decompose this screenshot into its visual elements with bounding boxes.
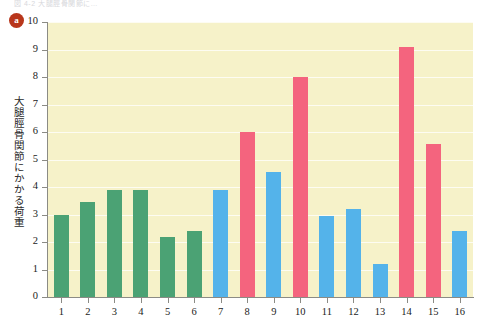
x-tick-label: 9: [263, 306, 285, 317]
y-tick-label: 4: [16, 180, 38, 191]
x-tick-label: 16: [449, 306, 471, 317]
y-tick-label: 5: [16, 153, 38, 164]
bar: [319, 216, 334, 297]
x-tick-label: 14: [396, 306, 418, 317]
y-tick-mark: [42, 242, 47, 243]
x-tick-label: 1: [50, 306, 72, 317]
bar: [80, 202, 95, 297]
x-tick-label: 15: [422, 306, 444, 317]
y-tick-label: 6: [16, 125, 38, 136]
bar: [187, 231, 202, 297]
bar: [213, 190, 228, 297]
x-tick-mark: [407, 298, 408, 303]
x-tick-mark: [141, 298, 142, 303]
x-tick-mark: [274, 298, 275, 303]
x-tick-mark: [380, 298, 381, 303]
x-tick-mark: [194, 298, 195, 303]
x-tick-mark: [247, 298, 248, 303]
y-tick-mark: [42, 77, 47, 78]
bar: [107, 190, 122, 297]
bar: [240, 132, 255, 297]
x-tick-label: 4: [130, 306, 152, 317]
y-tick-label: 0: [16, 290, 38, 301]
x-tick-mark: [327, 298, 328, 303]
y-tick-label: 7: [16, 98, 38, 109]
y-tick-label: 9: [16, 43, 38, 54]
y-axis-line: [47, 22, 48, 298]
gridline: [48, 22, 473, 23]
x-tick-mark: [460, 298, 461, 303]
x-tick-label: 12: [342, 306, 364, 317]
x-tick-mark: [433, 298, 434, 303]
x-tick-label: 10: [289, 306, 311, 317]
y-tick-label: 1: [16, 263, 38, 274]
x-axis-line: [47, 297, 474, 298]
y-tick-mark: [42, 132, 47, 133]
x-tick-label: 6: [183, 306, 205, 317]
y-tick-mark: [42, 22, 47, 23]
y-tick-mark: [42, 187, 47, 188]
x-tick-label: 11: [316, 306, 338, 317]
y-tick-label: 3: [16, 208, 38, 219]
x-tick-label: 3: [103, 306, 125, 317]
y-tick-label: 2: [16, 235, 38, 246]
y-tick-mark: [42, 50, 47, 51]
x-tick-mark: [353, 298, 354, 303]
y-tick-mark: [42, 297, 47, 298]
x-tick-mark: [300, 298, 301, 303]
x-tick-label: 2: [77, 306, 99, 317]
x-tick-label: 13: [369, 306, 391, 317]
figure-panel: 図 4-2 大腿脛骨関節に… a 大腿脛骨関節にかかる荷重 1098765432…: [0, 0, 483, 330]
bar: [452, 231, 467, 297]
bar: [160, 237, 175, 298]
x-tick-mark: [88, 298, 89, 303]
y-tick-mark: [42, 160, 47, 161]
bar: [373, 264, 388, 297]
x-tick-mark: [114, 298, 115, 303]
bar: [133, 190, 148, 297]
x-tick-mark: [168, 298, 169, 303]
bar: [54, 215, 69, 298]
x-tick-label: 5: [157, 306, 179, 317]
y-tick-mark: [42, 105, 47, 106]
x-tick-mark: [61, 298, 62, 303]
bar: [346, 209, 361, 297]
y-tick-label: 10: [16, 15, 38, 26]
x-tick-label: 7: [210, 306, 232, 317]
y-tick-mark: [42, 215, 47, 216]
bar: [293, 77, 308, 297]
y-tick-label: 8: [16, 70, 38, 81]
plot-area: [48, 22, 473, 297]
x-tick-label: 8: [236, 306, 258, 317]
faint-top-caption: 図 4-2 大腿脛骨関節に…: [14, 0, 254, 7]
bar: [399, 47, 414, 297]
bar: [426, 144, 441, 297]
y-tick-mark: [42, 270, 47, 271]
bar: [266, 172, 281, 297]
x-tick-mark: [221, 298, 222, 303]
